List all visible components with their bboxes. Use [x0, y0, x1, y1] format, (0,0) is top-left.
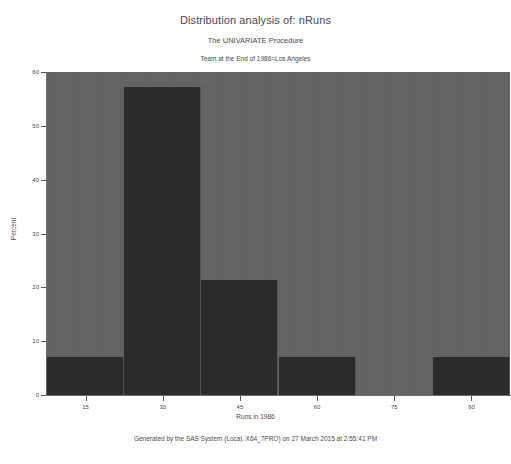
- y-axis-tick-label: 60: [11, 69, 39, 75]
- y-axis-tick-label: 50: [11, 123, 39, 129]
- chart-title-block: Distribution analysis of: nRuns The UNIV…: [0, 0, 511, 63]
- y-axis-tick-label: 10: [11, 338, 39, 344]
- x-axis-tick-label: 45: [225, 404, 255, 411]
- y-axis-tick: [41, 126, 46, 127]
- y-axis-tick: [41, 287, 46, 288]
- y-axis-tick: [41, 395, 46, 396]
- y-axis-tick-label: 20: [11, 284, 39, 290]
- y-axis-tick: [41, 234, 46, 235]
- histogram-bar: [433, 357, 510, 395]
- histogram-bar: [201, 280, 278, 395]
- x-axis-tick: [86, 396, 87, 401]
- y-axis-title: Percent: [10, 209, 18, 249]
- y-axis-tick: [41, 72, 46, 73]
- histogram-bar: [124, 87, 201, 395]
- histogram-bars: [47, 72, 510, 395]
- page-title: Distribution analysis of: nRuns: [0, 14, 511, 27]
- x-axis-tick-label: 75: [379, 404, 409, 411]
- x-axis-tick-label: 15: [71, 404, 101, 411]
- x-axis-tick: [240, 396, 241, 401]
- y-axis-tick-label: 40: [11, 177, 39, 183]
- x-axis-tick: [163, 396, 164, 401]
- y-axis-line: [46, 72, 47, 396]
- x-axis-tick: [471, 396, 472, 401]
- procedure-subtitle: The UNIVARIATE Procedure: [0, 36, 511, 46]
- histogram-bar: [279, 357, 356, 395]
- y-axis-tick: [41, 180, 46, 181]
- x-axis-tick-label: 90: [456, 404, 486, 411]
- x-axis-line: [46, 395, 511, 396]
- x-axis-tick-label: 60: [302, 404, 332, 411]
- histogram-bar: [47, 357, 124, 395]
- x-axis-title: Runs in 1986: [0, 413, 511, 421]
- y-axis-tick: [41, 341, 46, 342]
- x-axis-tick: [394, 396, 395, 401]
- by-group-label: Team at the End of 1986=Los Angeles: [0, 54, 511, 63]
- x-axis-tick: [317, 396, 318, 401]
- histogram-plot-area: [47, 72, 510, 395]
- x-axis-tick-label: 30: [148, 404, 178, 411]
- y-axis-tick-label: 0: [11, 392, 39, 398]
- generated-by-footer: Generated by the SAS System (Local, X64_…: [0, 434, 511, 443]
